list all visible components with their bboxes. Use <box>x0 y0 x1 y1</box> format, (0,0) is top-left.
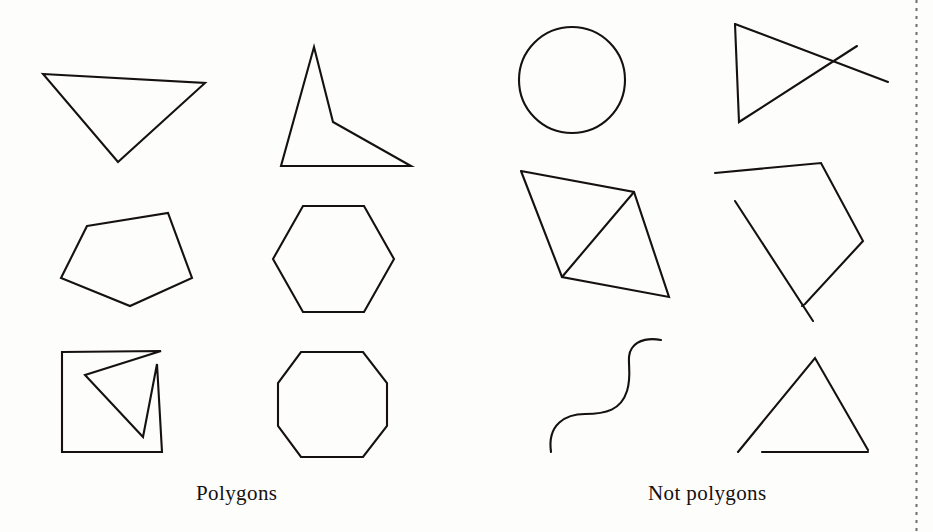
circle <box>519 27 625 133</box>
quadrilateral-with-diagonal <box>562 192 634 277</box>
wavy-curve <box>550 339 661 452</box>
regular-octagon <box>278 352 387 457</box>
irregular-pentagon <box>61 213 192 306</box>
concave-quadrilateral <box>281 47 411 166</box>
open-triangle <box>738 358 868 452</box>
caption-polygons: Polygons <box>196 481 277 506</box>
scalene-triangle <box>43 74 205 162</box>
dotted-page-edge <box>915 0 918 532</box>
crossed-open-figure <box>735 24 857 122</box>
regular-hexagon <box>273 206 394 312</box>
self-intersecting-square <box>62 351 162 452</box>
all-shapes <box>43 24 888 457</box>
quadrilateral-with-diagonal <box>521 171 669 297</box>
open-square-with-overshoot <box>735 201 813 321</box>
crossed-open-figure <box>735 24 888 82</box>
caption-not-polygons: Not polygons <box>648 481 767 506</box>
shapes-canvas <box>0 0 933 532</box>
figure-page: Polygons Not polygons <box>0 0 933 532</box>
